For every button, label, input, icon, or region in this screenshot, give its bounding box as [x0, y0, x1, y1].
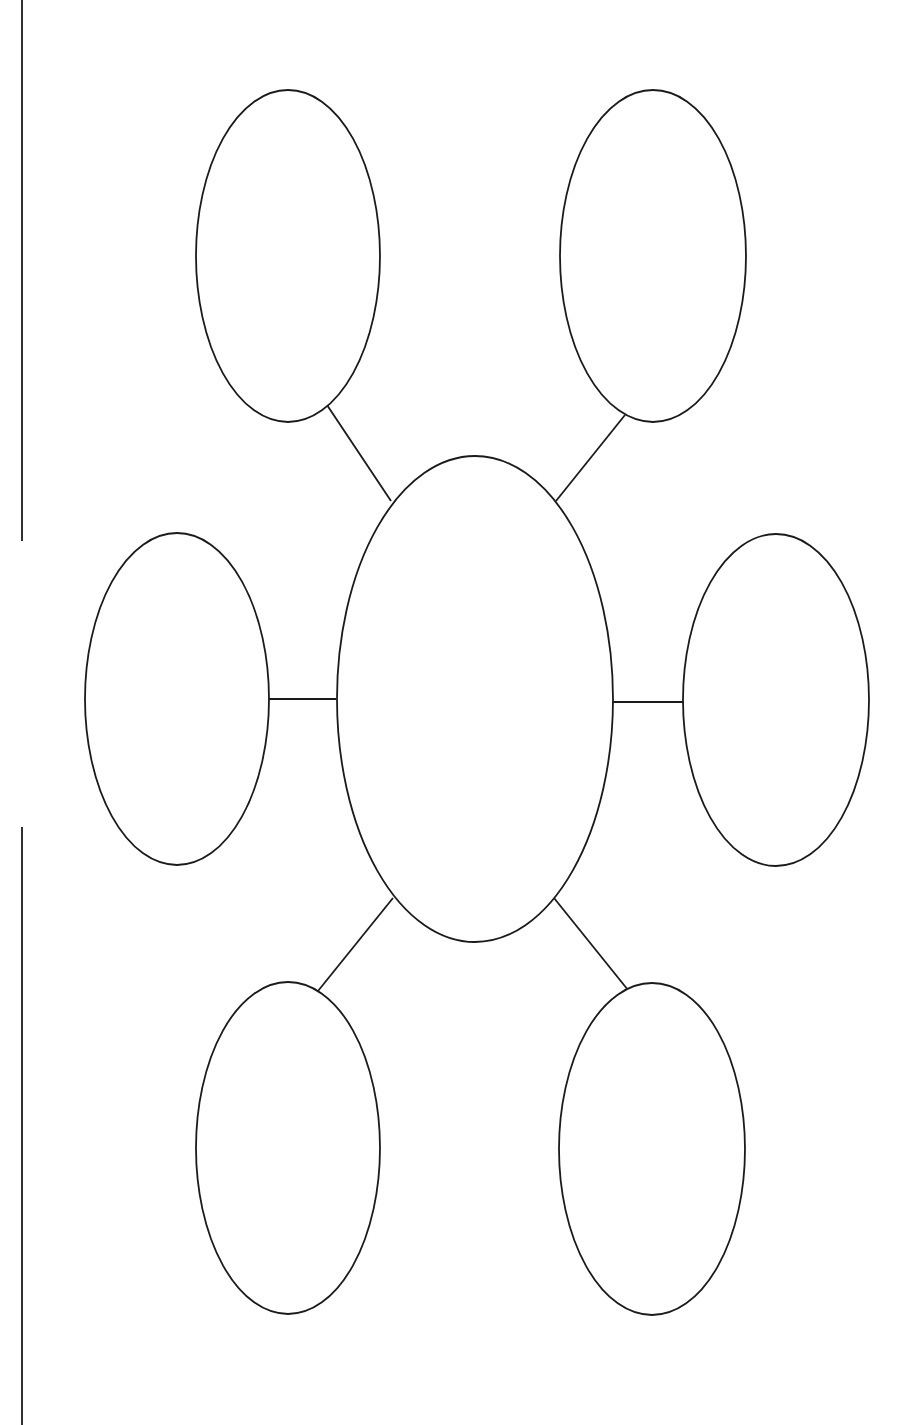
outer-bubble-shape[interactable] [559, 983, 745, 1315]
outer-bubble-shape[interactable] [683, 534, 869, 866]
connector-top-right [556, 415, 625, 501]
connector-bottom-left [318, 898, 393, 991]
outer-bubble-middle-right[interactable] [683, 534, 869, 866]
bubble-map-diagram [0, 0, 913, 1425]
outer-bubble-shape[interactable] [560, 90, 746, 422]
outer-bubble-middle-left[interactable] [85, 533, 269, 865]
outer-bubble-bottom-left[interactable] [196, 982, 380, 1314]
connector-top-left [327, 405, 391, 501]
outer-bubble-top-left[interactable] [196, 90, 380, 422]
center-bubble[interactable] [337, 456, 613, 942]
connector-bottom-right [554, 898, 628, 990]
center-bubble-shape[interactable] [337, 456, 613, 942]
outer-bubble-shape[interactable] [196, 982, 380, 1314]
outer-bubble-shape[interactable] [85, 533, 269, 865]
outer-bubble-top-right[interactable] [560, 90, 746, 422]
outer-bubble-bottom-right[interactable] [559, 983, 745, 1315]
outer-bubble-shape[interactable] [196, 90, 380, 422]
